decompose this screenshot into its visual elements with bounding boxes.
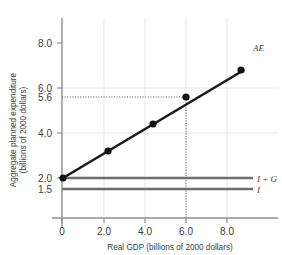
y-tick-label-2: 2.0 [38,173,52,184]
ae-expenditure-chart: 8.0 6.0 5.6 4.0 2.0 1.5 0 2.0 4.0 6.0 8.… [0,0,282,255]
ae-point-6-equilibrium [182,93,189,100]
x-tick-label-6: 6.0 [179,226,193,237]
chart-container: 8.0 6.0 5.6 4.0 2.0 1.5 0 2.0 4.0 6.0 8.… [0,0,282,255]
x-tick-label-4: 4.0 [138,226,152,237]
ae-point-0 [59,174,66,181]
y-tick-label-8: 8.0 [38,38,52,49]
label-investment-plus-government: I + G [256,174,278,184]
x-axis-title: Real GDP (billions of 2000 dollars) [107,243,233,252]
label-ae: AE [252,43,264,53]
x-tick-label-8: 8.0 [220,226,234,237]
ae-point-8 [237,66,244,73]
y-axis-title: Aggregate planned expenditure (billions … [9,72,28,187]
y-tick-label-1-5: 1.5 [38,184,52,195]
ae-point-2 [104,147,111,154]
y-axis-title-line2: (billions of 2000 dollars) [19,86,28,173]
y-axis-title-line1: Aggregate planned expenditure [9,72,18,187]
x-tick-label-2: 2.0 [97,226,111,237]
y-tick-label-5-6: 5.6 [38,92,52,103]
ae-point-4 [149,120,156,127]
y-tick-label-4: 4.0 [38,128,52,139]
x-tick-label-0: 0 [59,226,65,237]
